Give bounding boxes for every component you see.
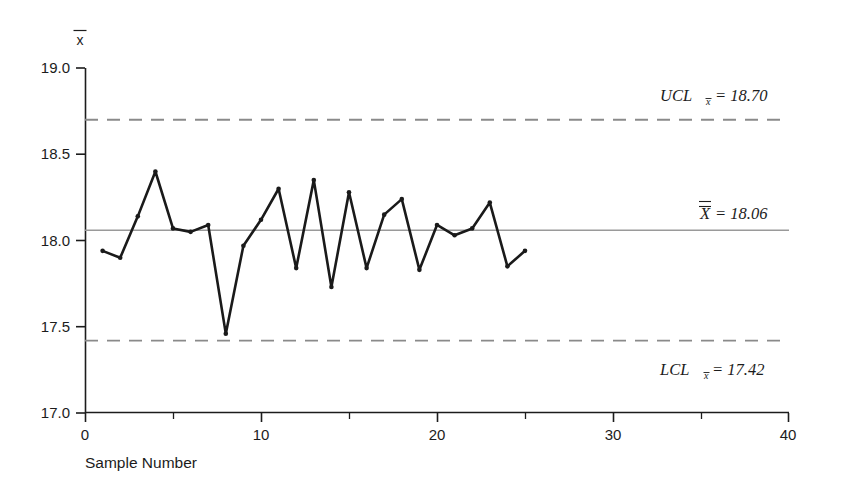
data-point — [312, 178, 317, 183]
ucl-annotation: UCL x = 18.70 — [660, 86, 768, 107]
lcl-annotation-value: = 17.42 — [712, 360, 764, 379]
ucl-annotation-value: = 18.70 — [715, 86, 768, 105]
lcl-annotation: LCL x = 17.42 — [659, 360, 764, 381]
data-point — [100, 249, 105, 254]
y-tick-label-18-5: 18.5 — [41, 145, 70, 162]
y-axis-symbol: x — [77, 32, 84, 48]
data-point — [382, 212, 387, 217]
y-tick-label-17-5: 17.5 — [41, 318, 70, 335]
y-tick-label-17-0: 17.0 — [41, 404, 70, 421]
chart-canvas: 19.0 18.5 18.0 17.5 17.0 x 0 10 20 30 40 — [0, 0, 841, 485]
data-point — [241, 243, 246, 248]
data-point — [171, 226, 176, 231]
data-point — [470, 226, 475, 231]
data-point — [488, 200, 493, 205]
data-point — [435, 223, 440, 228]
center-annotation: X = 18.06 — [699, 202, 768, 224]
ucl-annotation-subscript: x — [705, 96, 711, 107]
data-point — [523, 249, 528, 254]
x-tick-label-40: 40 — [780, 426, 797, 443]
data-point — [118, 255, 123, 260]
data-point — [452, 233, 457, 238]
data-point — [224, 331, 229, 336]
center-annotation-value: = 18.06 — [715, 204, 768, 223]
data-point — [364, 266, 369, 271]
lcl-annotation-subscript: x — [703, 370, 709, 381]
data-point — [206, 223, 211, 228]
data-point — [505, 264, 510, 269]
lcl-annotation-name: LCL — [659, 360, 689, 379]
data-point — [153, 169, 158, 174]
y-tick-label-18-0: 18.0 — [41, 232, 70, 249]
data-point — [136, 214, 141, 219]
data-point — [294, 266, 299, 271]
data-point — [417, 268, 422, 273]
y-tick-label-19-0: 19.0 — [41, 59, 70, 76]
data-point — [259, 218, 264, 223]
data-point — [400, 197, 405, 202]
data-point — [329, 285, 334, 290]
data-point — [188, 230, 193, 235]
data-point — [347, 190, 352, 195]
x-axis-title: Sample Number — [85, 454, 197, 471]
x-tick-label-10: 10 — [253, 426, 270, 443]
x-tick-label-0: 0 — [81, 426, 89, 443]
x-tick-label-20: 20 — [429, 426, 446, 443]
x-tick-label-30: 30 — [605, 426, 622, 443]
data-point — [276, 186, 281, 191]
ucl-annotation-name: UCL — [660, 86, 692, 105]
control-chart: 19.0 18.5 18.0 17.5 17.0 x 0 10 20 30 40 — [0, 0, 841, 485]
